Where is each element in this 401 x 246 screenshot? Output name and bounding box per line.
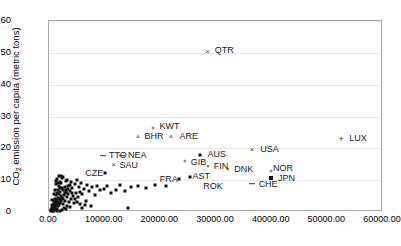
data-point bbox=[52, 210, 55, 213]
data-point bbox=[78, 202, 81, 205]
data-point-usa: × bbox=[249, 147, 255, 153]
y-tick-label: 30 bbox=[0, 110, 11, 121]
y-tick-label: 60 bbox=[0, 14, 11, 25]
data-point bbox=[153, 184, 156, 187]
data-point bbox=[74, 198, 77, 201]
data-point bbox=[88, 189, 91, 192]
point-label-fin: FIN bbox=[214, 161, 229, 171]
data-point bbox=[64, 188, 67, 191]
plot-area: ×+×× QTRLUXUSAKWTBHRAREAUSGIBFINTTONEASA… bbox=[48, 20, 382, 211]
data-point-sau: × bbox=[111, 162, 117, 168]
data-point-qtr: × bbox=[205, 49, 211, 55]
data-point-kwt bbox=[151, 126, 154, 129]
x-tick-label: 60000.00 bbox=[363, 214, 401, 224]
point-label-nea: NEA bbox=[128, 150, 147, 160]
y-tick-label: 20 bbox=[0, 141, 11, 152]
point-label-qtr: QTR bbox=[215, 45, 234, 55]
data-point bbox=[58, 209, 61, 212]
data-point-lux: + bbox=[338, 136, 345, 143]
data-point-tto bbox=[100, 155, 106, 157]
gridline bbox=[49, 85, 381, 86]
data-point bbox=[73, 182, 76, 185]
data-point bbox=[145, 186, 148, 189]
data-point bbox=[55, 210, 58, 213]
data-point bbox=[66, 178, 69, 181]
data-point bbox=[70, 191, 73, 194]
data-point bbox=[93, 194, 96, 197]
data-point-cze bbox=[104, 171, 107, 174]
data-point bbox=[57, 182, 60, 185]
data-point bbox=[74, 191, 77, 194]
gridline bbox=[49, 21, 381, 22]
data-point bbox=[91, 185, 94, 188]
y-tick-label: 0 bbox=[0, 205, 11, 216]
data-point bbox=[110, 192, 113, 195]
data-point bbox=[81, 193, 84, 196]
x-tick-label: 0.00 bbox=[39, 214, 57, 224]
data-point bbox=[123, 190, 126, 193]
data-point bbox=[127, 207, 130, 210]
data-point bbox=[102, 187, 105, 190]
data-point bbox=[60, 175, 63, 178]
point-label-are: ARE bbox=[179, 131, 198, 141]
data-point-bhr bbox=[136, 134, 140, 138]
data-point bbox=[83, 188, 86, 191]
point-label-che: CHE bbox=[259, 179, 278, 189]
data-point bbox=[114, 188, 117, 191]
data-point bbox=[89, 205, 92, 208]
point-label-sau: SAU bbox=[120, 160, 139, 170]
x-tick-label: 10000.00 bbox=[85, 214, 123, 224]
data-point bbox=[71, 187, 74, 190]
data-point bbox=[65, 208, 68, 211]
data-point bbox=[65, 195, 68, 198]
data-point bbox=[75, 179, 78, 182]
data-point bbox=[69, 197, 72, 200]
point-label-jpn: JPN bbox=[278, 173, 295, 183]
data-point bbox=[62, 197, 65, 200]
point-label-cze: CZE bbox=[85, 168, 103, 178]
point-label-usa: USA bbox=[260, 144, 279, 154]
point-label-tto: TTO bbox=[109, 150, 127, 160]
data-point bbox=[83, 203, 86, 206]
x-tick-label: 40000.00 bbox=[252, 214, 290, 224]
data-point bbox=[84, 199, 87, 202]
x-tick-label: 30000.00 bbox=[196, 214, 234, 224]
data-point bbox=[106, 184, 109, 187]
data-point bbox=[54, 189, 57, 192]
data-point bbox=[67, 184, 70, 187]
point-label-gib: GIB bbox=[191, 157, 207, 167]
point-label-fra: FRA bbox=[160, 174, 178, 184]
point-label-dnk: DNK bbox=[234, 164, 253, 174]
data-point bbox=[59, 187, 62, 190]
data-point bbox=[130, 185, 133, 188]
y-axis-title-text: emission per capita (metric tons) bbox=[10, 27, 21, 167]
point-label-nor: NOR bbox=[273, 163, 293, 173]
y-tick-label: 10 bbox=[0, 173, 11, 184]
data-point bbox=[53, 192, 56, 195]
data-point bbox=[51, 198, 54, 201]
data-point bbox=[96, 185, 99, 188]
y-tick-label: 50 bbox=[0, 46, 11, 57]
y-tick-label: 40 bbox=[0, 78, 11, 89]
data-point-che bbox=[249, 183, 255, 185]
point-label-lux: LUX bbox=[349, 133, 367, 143]
x-tick-label: 20000.00 bbox=[141, 214, 179, 224]
point-label-bhr: BHR bbox=[145, 131, 164, 141]
point-label-rok: ROK bbox=[203, 181, 223, 191]
y-axis-title: CO2 emission per capita (metric tons) bbox=[10, 6, 23, 206]
data-point bbox=[80, 182, 83, 185]
data-point bbox=[76, 196, 79, 199]
data-point bbox=[164, 185, 167, 188]
data-point bbox=[119, 183, 122, 186]
gridline bbox=[49, 117, 381, 118]
point-label-aus: AUS bbox=[207, 149, 226, 159]
data-point-are bbox=[169, 134, 173, 138]
x-tick-label: 50000.00 bbox=[308, 214, 346, 224]
data-point bbox=[78, 186, 81, 189]
data-point bbox=[86, 184, 89, 187]
data-point bbox=[63, 192, 66, 195]
data-point bbox=[69, 205, 72, 208]
data-point-gib bbox=[183, 160, 186, 163]
data-point-fin bbox=[206, 165, 209, 168]
